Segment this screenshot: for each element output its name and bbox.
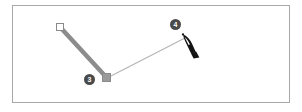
step-badge-3: 3 (84, 74, 95, 85)
artboard-frame (12, 5, 290, 103)
step-badge-4: 4 (170, 19, 181, 30)
start-anchor-point[interactable] (56, 23, 64, 31)
corner-anchor-point[interactable] (102, 73, 111, 82)
pen-nib-icon (180, 33, 202, 59)
drawing-canvas[interactable]: 3 4 (0, 0, 302, 112)
